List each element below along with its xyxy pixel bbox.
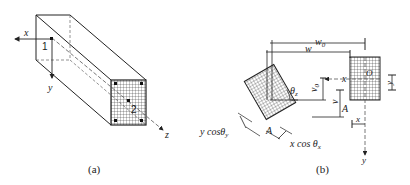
figure-canvas: x y z 1 2 (a) bbox=[0, 0, 410, 185]
v-label: v bbox=[329, 99, 340, 104]
x-axis-label: x bbox=[23, 27, 29, 38]
point-2-marker bbox=[127, 99, 130, 102]
w-label: w bbox=[305, 43, 312, 54]
z-axis-label: z bbox=[164, 129, 169, 140]
x-cos-theta-label: x cos θx bbox=[289, 138, 322, 151]
point-1-label: 1 bbox=[42, 41, 48, 52]
v0-label: v0 bbox=[308, 84, 321, 92]
origin-label: O bbox=[366, 68, 373, 78]
figure-a-beam bbox=[15, 15, 163, 130]
y-axis-label: y bbox=[47, 82, 53, 93]
small-y-label: y bbox=[384, 81, 394, 86]
area-label-right: A bbox=[341, 103, 349, 114]
small-x-label: x bbox=[355, 114, 360, 124]
cross-section-grid bbox=[111, 80, 146, 125]
w0-label: w0 bbox=[315, 36, 326, 49]
point-1-marker bbox=[50, 37, 53, 40]
caption-b: (b) bbox=[316, 163, 329, 176]
area-label-left: A bbox=[265, 125, 273, 136]
y-axis-label-b: y bbox=[361, 155, 366, 165]
y-cos-theta-label: y cosθy bbox=[199, 126, 229, 139]
caption-a: (a) bbox=[88, 163, 101, 176]
point-2-label: 2 bbox=[131, 104, 137, 115]
x-axis-label-b: x bbox=[341, 73, 347, 84]
